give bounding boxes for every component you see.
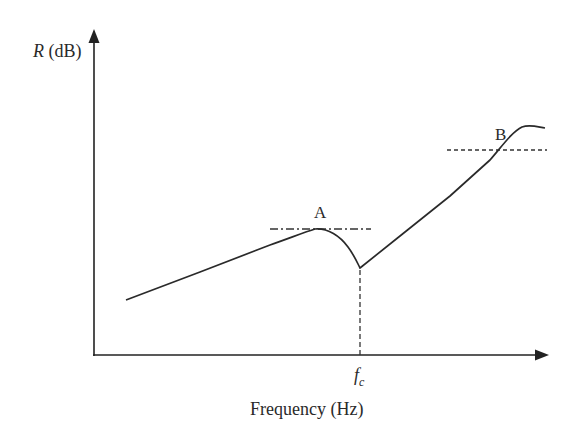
y-axis-arrow-icon [89, 29, 100, 43]
fc-subscript: c [359, 375, 364, 389]
point-a-text: A [314, 203, 326, 222]
x-axis-label: Frequency (Hz) [250, 400, 363, 418]
fc-tick-label: fc [354, 366, 364, 388]
point-b-text: B [495, 125, 506, 144]
x-axis-title: Frequency (Hz) [250, 399, 363, 419]
y-axis-label: R (dB) [33, 42, 82, 60]
x-axis-arrow-icon [535, 350, 549, 361]
chart-canvas [0, 0, 576, 436]
y-axis-symbol: R [33, 41, 44, 61]
point-a-label: A [314, 204, 326, 221]
point-b-label: B [495, 126, 506, 143]
y-axis-unit: (dB) [49, 41, 82, 61]
transmission-loss-curve [126, 126, 545, 300]
